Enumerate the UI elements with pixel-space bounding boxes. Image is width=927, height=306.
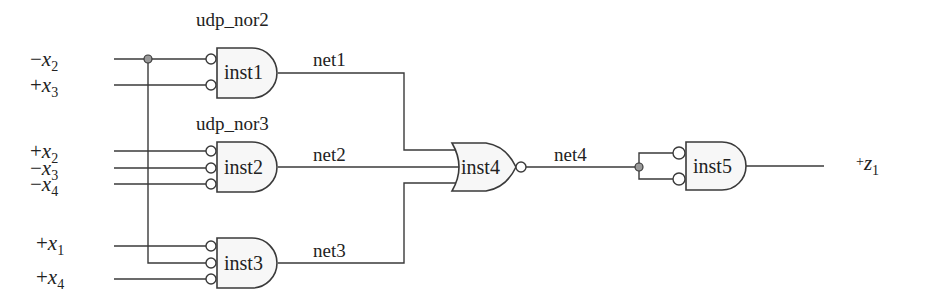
- net-label-net1: net1: [313, 49, 346, 70]
- inversion-bubble: [673, 147, 685, 159]
- inversion-bubble: [206, 179, 216, 189]
- gate-inst2: inst2: [206, 142, 277, 192]
- udp-label-nor2: udp_nor2: [196, 9, 269, 30]
- gate-label: inst1: [224, 61, 263, 83]
- inversion-bubble: [206, 146, 216, 156]
- inversion-bubble: [206, 54, 216, 64]
- wire-net1: [278, 73, 456, 150]
- junction-dot: [635, 163, 643, 171]
- wire-net3: [278, 183, 456, 263]
- inversion-bubble: [206, 163, 216, 173]
- input-labels: −x2 +x3 +x2 −x3 −x4 +x1 +x4: [30, 47, 64, 292]
- gate-inst4: inst4: [452, 143, 526, 191]
- gate-label: inst3: [224, 252, 263, 274]
- inversion-bubble: [516, 162, 526, 172]
- net-label-net2: net2: [313, 144, 346, 165]
- wire-net4-lower: [639, 167, 673, 179]
- input-label-pos-x3: +x3: [30, 73, 58, 100]
- input-label-pos-x4: +x4: [36, 265, 64, 292]
- input-wires: [114, 55, 206, 279]
- gate-inst5: inst5: [673, 142, 746, 190]
- junction-dot: [144, 55, 152, 63]
- inversion-bubble: [206, 274, 216, 284]
- gate-label: inst5: [693, 155, 732, 177]
- gate-inst3: inst3: [206, 238, 277, 288]
- internal-nets: net1 net2 net3: [278, 49, 460, 263]
- logic-circuit-diagram: −x2 +x3 +x2 −x3 −x4 +x1 +x4 ud: [0, 0, 927, 306]
- inversion-bubble: [206, 258, 216, 268]
- wire-net4-upper: [639, 153, 673, 167]
- inversion-bubble: [206, 241, 216, 251]
- udp-label-nor3: udp_nor3: [196, 113, 269, 134]
- input-label-pos-x1: +x1: [36, 231, 64, 258]
- inversion-bubble: [673, 173, 685, 185]
- net-label-net4: net4: [554, 144, 587, 165]
- gate-label: inst2: [224, 156, 263, 178]
- output: +z1: [746, 151, 879, 178]
- input-label-neg-x2: −x2: [30, 47, 58, 74]
- output-label-z1: +z1: [856, 151, 879, 178]
- gate-label: inst4: [461, 156, 500, 178]
- wire-neg-x2-fanout: [148, 59, 206, 263]
- net4-wiring: net4: [526, 144, 673, 179]
- inversion-bubble: [206, 80, 216, 90]
- net-label-net3: net3: [313, 240, 346, 261]
- gate-inst1: inst1: [206, 48, 277, 98]
